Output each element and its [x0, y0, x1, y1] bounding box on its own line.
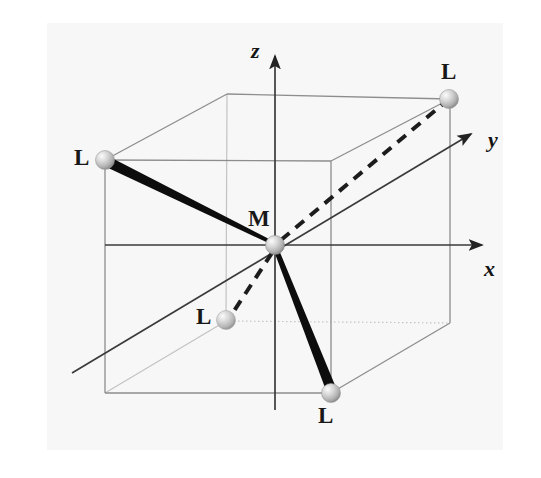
label-axis-x: x — [484, 258, 495, 280]
atom-ligand-bottom — [322, 384, 341, 403]
label-ligand-bottom: L — [318, 404, 334, 427]
label-ligand-top-right: L — [441, 60, 457, 83]
atom-ligand-inner — [217, 311, 236, 330]
atom-metal-centre — [266, 236, 285, 255]
label-axis-z: z — [251, 40, 260, 62]
diagram-canvas — [0, 0, 541, 478]
label-ligand-inner: L — [196, 305, 212, 328]
atom-ligand-top-right — [440, 90, 459, 109]
label-ligand-left: L — [74, 146, 90, 169]
atom-ligand-left — [96, 151, 115, 170]
label-metal-m: M — [248, 207, 270, 230]
figure-container: M L L L L z x y — [0, 0, 541, 478]
label-axis-y: y — [488, 129, 498, 151]
